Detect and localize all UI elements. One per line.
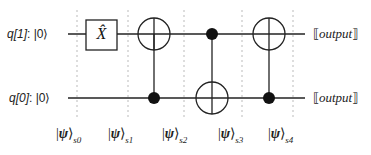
state-label-s4: |ψ⟩s4 xyxy=(268,126,293,143)
psi-symbol: ψ xyxy=(59,126,68,141)
separator: : xyxy=(27,27,30,41)
state-subscript: s3 xyxy=(235,135,243,145)
qubit-label-q0: q[0]: |0⟩ xyxy=(9,91,51,105)
state-subscript: s0 xyxy=(73,135,81,145)
qubit-init-state: |0⟩ xyxy=(34,27,49,41)
cnot-gate-1 xyxy=(138,18,170,104)
state-label-s1: |ψ⟩s1 xyxy=(108,126,133,143)
psi-symbol: ψ xyxy=(221,126,230,141)
x-gate-label: X̂ xyxy=(86,26,117,42)
qubit-name: q[1] xyxy=(7,27,27,41)
state-label-s2: |ψ⟩s2 xyxy=(162,126,187,143)
cnot-gate-3 xyxy=(253,18,285,104)
bracket-close: ⟧ xyxy=(352,90,358,105)
cnot-gate-2 xyxy=(196,28,228,114)
psi-symbol: ψ xyxy=(271,126,280,141)
output-label-q0: ⟦output⟧ xyxy=(313,91,358,105)
cnot-1-control-dot-icon xyxy=(148,92,160,104)
state-label-s3: |ψ⟩s3 xyxy=(218,126,243,143)
output-text: output xyxy=(319,26,352,41)
cnot-2-control-dot-icon xyxy=(206,28,218,40)
state-label-s0: |ψ⟩s0 xyxy=(56,126,81,143)
separator: : xyxy=(29,91,32,105)
output-text: output xyxy=(319,90,352,105)
output-label-q1: ⟦output⟧ xyxy=(313,27,358,41)
qubit-label-q1: q[1]: |0⟩ xyxy=(7,27,49,41)
bracket-close: ⟧ xyxy=(352,26,358,41)
state-subscript: s4 xyxy=(285,135,293,145)
psi-symbol: ψ xyxy=(165,126,174,141)
psi-symbol: ψ xyxy=(111,126,120,141)
cnot-3-control-dot-icon xyxy=(263,92,275,104)
qubit-init-state: |0⟩ xyxy=(36,91,51,105)
qubit-name: q[0] xyxy=(9,91,29,105)
state-subscript: s1 xyxy=(125,135,133,145)
state-subscript: s2 xyxy=(179,135,187,145)
